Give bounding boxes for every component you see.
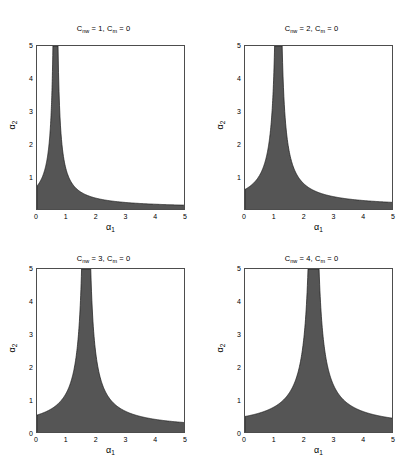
subplot-4-ylabel-sub: 2 — [219, 344, 226, 348]
subplot-4-ytick-1: 1 — [237, 397, 241, 404]
subplot-4-title-c2-value: 0 — [334, 254, 338, 263]
subplot-3-xtick-3: 3 — [123, 436, 127, 443]
subplot-1-ytick-labels: 1 2 3 4 5 — [18, 45, 33, 210]
subplot-2: Cnw = 2, Cm = 0 0 1 2 3 4 5 1 2 3 4 5 α1… — [208, 0, 415, 238]
subplot-4-ytick-labels: 0 1 2 3 4 5 — [226, 268, 241, 433]
subplot-1-ytick-2: 2 — [29, 141, 33, 148]
subplot-2-title-c2-sub: m — [320, 28, 325, 34]
subplot-3-shaded-region — [37, 269, 185, 433]
subplot-1: Cnw = 1, Cm = 0 0 1 2 3 4 5 1 2 3 4 5 α1… — [0, 0, 207, 238]
subplot-4-xlabel-sub: 1 — [319, 449, 323, 456]
subplot-1-ylabel: α2 — [7, 105, 17, 145]
subplot-2-ytick-5: 5 — [237, 42, 241, 49]
subplot-3-title-c2-sub: m — [112, 258, 117, 264]
subplot-3-xlabel: α1 — [36, 445, 185, 455]
subplot-1-region-plot — [37, 46, 185, 210]
subplot-2-xtick-3: 3 — [331, 213, 335, 220]
subplot-2-ytick-2: 2 — [237, 141, 241, 148]
subplot-3-xtick-0: 0 — [34, 436, 38, 443]
subplot-1-title-c1-value: 1 — [98, 24, 102, 33]
subplot-1-xtick-1: 1 — [64, 213, 68, 220]
subplot-4-ylabel: α2 — [215, 328, 225, 368]
subplot-1-shaded-region — [37, 46, 185, 210]
subplot-2-xtick-2: 2 — [302, 213, 306, 220]
subplot-1-xlabel: α1 — [36, 222, 185, 232]
subplot-4-shaded-region — [245, 269, 393, 433]
subplot-1-ylabel-text: α — [7, 124, 17, 129]
subplot-3-xtick-5: 5 — [183, 436, 187, 443]
subplot-3-ytick-1: 1 — [29, 397, 33, 404]
subplot-3-xtick-1: 1 — [64, 436, 68, 443]
figure-canvas: Cnw = 1, Cm = 0 0 1 2 3 4 5 1 2 3 4 5 α1… — [0, 0, 415, 476]
subplot-1-xtick-4: 4 — [153, 213, 157, 220]
subplot-1-xtick-3: 3 — [123, 213, 127, 220]
subplot-2-title-c2-value: 0 — [334, 24, 338, 33]
subplot-3-ylabel-sub: 2 — [11, 344, 18, 348]
subplot-4-region-plot — [245, 269, 393, 433]
subplot-3-ytick-0: 0 — [29, 430, 33, 437]
subplot-4-title-c1-value: 4 — [306, 254, 310, 263]
subplot-2-ylabel: α2 — [215, 105, 225, 145]
subplot-2-ylabel-sub: 2 — [219, 121, 226, 125]
subplot-2-axes — [244, 45, 393, 210]
subplot-3-region-plot — [37, 269, 185, 433]
subplot-4-ytick-2: 2 — [237, 364, 241, 371]
subplot-2-xtick-0: 0 — [242, 213, 246, 220]
subplot-2-ytick-4: 4 — [237, 75, 241, 82]
subplot-2-region-plot — [245, 46, 393, 210]
subplot-2-title-c1-value: 2 — [306, 24, 310, 33]
subplot-4-xtick-4: 4 — [361, 436, 365, 443]
subplot-3-ytick-3: 3 — [29, 331, 33, 338]
subplot-1-xtick-5: 5 — [183, 213, 187, 220]
subplot-1-xtick-2: 2 — [94, 213, 98, 220]
subplot-2-shaded-region — [245, 46, 393, 210]
subplot-4-axes — [244, 268, 393, 433]
subplot-2-ytick-1: 1 — [237, 174, 241, 181]
subplot-1-ytick-1: 1 — [29, 174, 33, 181]
subplot-1-title-c2-value: 0 — [126, 24, 130, 33]
subplot-4-ytick-0: 0 — [237, 430, 241, 437]
subplot-2-title-c1-sub: nw — [290, 28, 297, 34]
subplot-4-title: Cnw = 4, Cm = 0 — [208, 254, 415, 263]
subplot-3: Cnw = 3, Cm = 0 0 1 2 3 4 5 0 1 2 3 4 5 … — [0, 238, 207, 476]
subplot-2-ytick-labels: 1 2 3 4 5 — [226, 45, 241, 210]
subplot-1-xtick-0: 0 — [34, 213, 38, 220]
subplot-4-xtick-1: 1 — [272, 436, 276, 443]
subplot-4-xtick-0: 0 — [242, 436, 246, 443]
subplot-3-xlabel-sub: 1 — [111, 449, 115, 456]
subplot-3-xtick-2: 2 — [94, 436, 98, 443]
subplot-4-xtick-3: 3 — [331, 436, 335, 443]
subplot-1-title-c2-sub: m — [112, 28, 117, 34]
subplot-2-ytick-3: 3 — [237, 108, 241, 115]
subplot-4-ytick-3: 3 — [237, 331, 241, 338]
subplot-1-title-c1-sub: nw — [82, 28, 89, 34]
subplot-1-ytick-5: 5 — [29, 42, 33, 49]
subplot-2-title: Cnw = 2, Cm = 0 — [208, 24, 415, 33]
subplot-3-title-c2-value: 0 — [126, 254, 130, 263]
subplot-2-ylabel-text: α — [215, 124, 225, 129]
subplot-3-axes — [36, 268, 185, 433]
subplot-2-xlabel: α1 — [244, 222, 393, 232]
subplot-1-ytick-4: 4 — [29, 75, 33, 82]
subplot-4-xtick-2: 2 — [302, 436, 306, 443]
subplot-1-ytick-3: 3 — [29, 108, 33, 115]
subplot-4-xtick-5: 5 — [391, 436, 395, 443]
subplot-2-xlabel-sub: 1 — [319, 226, 323, 233]
subplot-3-ytick-5: 5 — [29, 265, 33, 272]
subplot-4-ytick-4: 4 — [237, 298, 241, 305]
subplot-3-ytick-labels: 0 1 2 3 4 5 — [18, 268, 33, 433]
subplot-3-title-c1-sub: nw — [82, 258, 89, 264]
subplot-2-xtick-1: 1 — [272, 213, 276, 220]
subplot-2-xtick-4: 4 — [361, 213, 365, 220]
subplot-1-ylabel-sub: 2 — [11, 121, 18, 125]
subplot-3-title-c1-value: 3 — [98, 254, 102, 263]
subplot-1-axes — [36, 45, 185, 210]
subplot-4: Cnw = 4, Cm = 0 0 1 2 3 4 5 0 1 2 3 4 5 … — [208, 238, 415, 476]
subplot-4-title-c2-sub: m — [320, 258, 325, 264]
subplot-3-ytick-2: 2 — [29, 364, 33, 371]
subplot-4-title-c1-sub: nw — [290, 258, 297, 264]
subplot-1-xlabel-sub: 1 — [111, 226, 115, 233]
subplot-4-ytick-5: 5 — [237, 265, 241, 272]
subplot-3-ylabel: α2 — [7, 328, 17, 368]
subplot-3-ytick-4: 4 — [29, 298, 33, 305]
